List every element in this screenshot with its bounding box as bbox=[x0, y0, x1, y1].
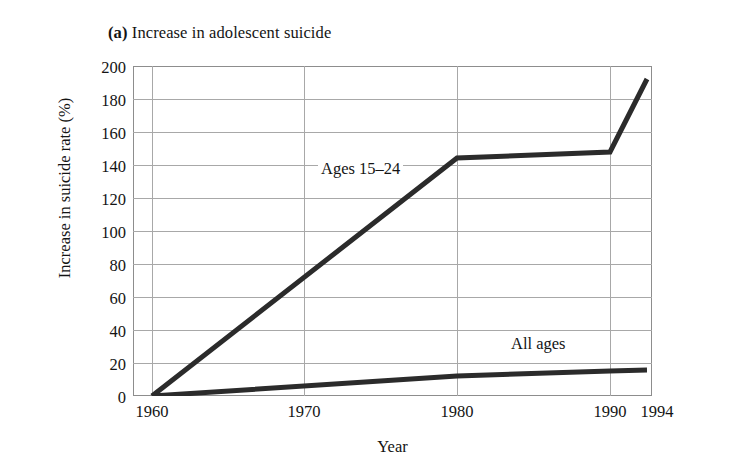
x-tick-label: 1980 bbox=[441, 404, 474, 421]
y-tick-label: 40 bbox=[80, 324, 126, 341]
y-tick-label: 180 bbox=[80, 93, 126, 110]
x-axis-title: Year bbox=[133, 437, 652, 457]
series-line-ages-15-24 bbox=[152, 79, 647, 396]
series-label-ages-15-24: Ages 15–24 bbox=[318, 159, 403, 179]
y-tick-label: 80 bbox=[80, 258, 126, 275]
x-tick-label: 1994 bbox=[641, 404, 674, 421]
neighbor-panel-crop: Suicides per 100,000 population bbox=[700, 0, 739, 475]
series-line-all-ages bbox=[152, 370, 647, 396]
x-tick-label: 1990 bbox=[594, 404, 627, 421]
x-tick-label: 1960 bbox=[136, 404, 169, 421]
y-axis-tick-labels: 200 180 160 140 120 100 80 60 40 20 0 bbox=[76, 66, 126, 396]
x-axis-tick-labels: 1960 1970 1980 1990 1994 bbox=[133, 404, 652, 428]
y-tick-label: 160 bbox=[80, 126, 126, 143]
y-tick-label: 0 bbox=[80, 390, 126, 407]
panel-letter: (a) bbox=[108, 23, 128, 42]
figure-panel-a: (a) Increase in adolescent suicide Incre… bbox=[0, 0, 739, 475]
x-tick-label: 1970 bbox=[288, 404, 321, 421]
y-tick-label: 200 bbox=[80, 60, 126, 77]
series-label-all-ages: All ages bbox=[508, 334, 569, 354]
series-lines-svg bbox=[133, 66, 652, 396]
y-tick-label: 60 bbox=[80, 291, 126, 308]
y-tick-label: 120 bbox=[80, 192, 126, 209]
y-axis-title: Increase in suicide rate (%) bbox=[55, 23, 75, 353]
plot-area: Ages 15–24 All ages bbox=[133, 66, 652, 396]
panel-title: (a) Increase in adolescent suicide bbox=[108, 23, 331, 43]
y-tick-label: 140 bbox=[80, 159, 126, 176]
y-tick-label: 100 bbox=[80, 225, 126, 242]
panel-title-text: Increase in adolescent suicide bbox=[132, 23, 332, 42]
y-tick-label: 20 bbox=[80, 357, 126, 374]
